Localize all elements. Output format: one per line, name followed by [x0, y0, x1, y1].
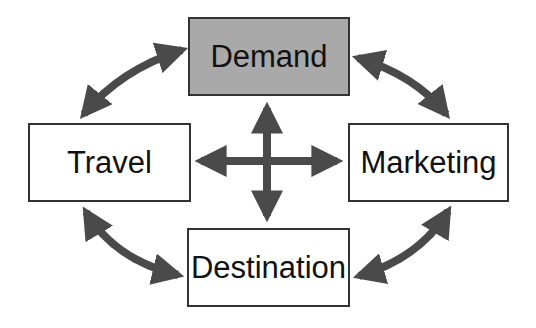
curved-arrow-demand-travel: [84, 50, 182, 114]
node-marketing: Marketing: [348, 123, 509, 202]
node-destination-label: Destination: [191, 250, 346, 286]
node-demand-label: Demand: [210, 39, 327, 75]
node-demand: Demand: [188, 17, 350, 96]
curved-arrow-demand-marketing: [358, 58, 446, 114]
node-marketing-label: Marketing: [360, 145, 496, 181]
node-travel: Travel: [28, 123, 191, 202]
node-travel-label: Travel: [67, 145, 152, 181]
curved-arrow-marketing-destination: [359, 211, 448, 276]
node-destination: Destination: [187, 228, 350, 307]
curved-arrow-travel-destination: [86, 212, 178, 275]
